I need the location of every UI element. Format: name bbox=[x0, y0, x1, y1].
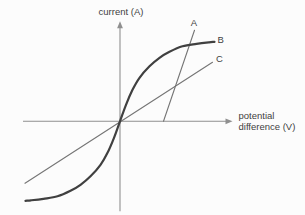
curve-labels: A B C bbox=[191, 17, 224, 65]
series-C-label: C bbox=[216, 53, 223, 64]
figure: A B C current (A) potential difference (… bbox=[0, 0, 305, 215]
x-axis-arrow-icon bbox=[226, 118, 233, 124]
y-axis-label: current (A) bbox=[99, 6, 144, 17]
y-axis-arrow-icon bbox=[117, 21, 123, 28]
iv-characteristics-graph: A B C current (A) potential difference (… bbox=[0, 0, 305, 215]
series-A-label: A bbox=[191, 17, 198, 28]
series-B-label: B bbox=[218, 34, 224, 45]
x-axis-label-line-1: potential bbox=[239, 110, 275, 121]
x-axis-label-line-2: difference (V) bbox=[239, 121, 296, 132]
axes bbox=[23, 21, 233, 211]
